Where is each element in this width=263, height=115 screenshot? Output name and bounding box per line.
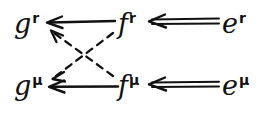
node-g-r: gr: [14, 10, 39, 37]
node-g-r-superscript: r: [32, 10, 39, 26]
arrow-fmu-to-gr-dashed: [51, 31, 113, 77]
node-g-mu-base: g: [14, 70, 31, 101]
arrow-fmu-to-gmu: [49, 81, 118, 93]
arrow-emu-to-fmu: [149, 78, 219, 91]
node-f-r-base: f: [118, 8, 128, 39]
node-g-mu: gμ: [14, 72, 43, 99]
node-e-mu-superscript: μ: [239, 72, 249, 88]
node-g-r-base: g: [14, 8, 31, 39]
node-e-r-base: e: [222, 8, 238, 39]
node-f-r-superscript: r: [129, 10, 136, 26]
node-g-mu-superscript: μ: [32, 72, 42, 88]
node-f-mu-superscript: μ: [129, 72, 139, 88]
arrow-er-to-fr: [149, 15, 219, 28]
node-f-mu: fμ: [118, 72, 139, 99]
node-e-mu-base: e: [222, 70, 238, 101]
node-f-mu-base: f: [118, 70, 128, 101]
node-e-mu: eμ: [222, 72, 249, 99]
node-e-r: er: [222, 10, 246, 37]
arrow-fr-to-gmu-dashed: [53, 33, 114, 82]
arrow-fr-to-gr: [47, 17, 115, 29]
node-f-r: fr: [118, 10, 136, 37]
commutative-diagram: gr fr er gμ fμ eμ: [0, 0, 263, 115]
node-e-r-superscript: r: [239, 10, 246, 26]
